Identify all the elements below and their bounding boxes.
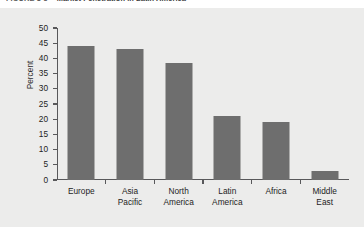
bar	[154, 28, 203, 180]
x-axis-category-label: Europe	[57, 186, 106, 197]
x-axis-tick-mark	[251, 180, 252, 184]
bar-rect	[214, 116, 241, 180]
x-axis-category-label: North America	[154, 186, 203, 207]
bar-rect	[68, 46, 95, 180]
y-axis-tick-label: 40	[39, 53, 48, 63]
x-axis-category-label: Middle East	[300, 186, 349, 207]
y-axis-tick-label: 0	[43, 175, 48, 185]
bar	[300, 28, 349, 180]
x-axis-labels: EuropeAsia PacificNorth AmericaLatin Ame…	[57, 180, 349, 226]
figure-caption: FIGURE 3-5Market Penetration in Latin Am…	[6, 0, 360, 4]
y-axis-tick-label: 45	[39, 38, 48, 48]
y-axis-tick-label: 15	[39, 129, 48, 139]
x-axis-tick-mark	[300, 180, 301, 184]
bar	[252, 28, 301, 180]
bar-rect	[165, 63, 192, 180]
y-axis-tick-label: 35	[39, 68, 48, 78]
x-axis-category-label: Latin America	[203, 186, 252, 207]
y-axis-tick-label: 20	[39, 114, 48, 124]
bar	[106, 28, 155, 180]
bar-series	[57, 28, 349, 180]
bar-rect	[262, 122, 289, 180]
y-axis-tick-label: 5	[43, 159, 48, 169]
figure-number: FIGURE 3-5	[6, 0, 48, 3]
bar-chart: Percent 05101520253035404550 EuropeAsia …	[0, 8, 364, 227]
y-axis-tick-label: 25	[39, 99, 48, 109]
x-axis-category-label: Asia Pacific	[106, 186, 155, 207]
x-axis-category-label: Africa	[252, 186, 301, 197]
y-axis-tick-label: 50	[39, 23, 48, 33]
bar	[57, 28, 106, 180]
x-axis-tick-mark	[105, 180, 106, 184]
y-axis-tick-label: 30	[39, 83, 48, 93]
y-axis-tick-label: 10	[39, 144, 48, 154]
bar-rect	[311, 171, 338, 180]
figure-title: Market Penetration in Latin America	[57, 0, 186, 3]
x-axis-tick-mark	[202, 180, 203, 184]
x-axis-tick-mark	[154, 180, 155, 184]
bar	[203, 28, 252, 180]
bar-rect	[116, 49, 143, 180]
y-axis-title: Percent	[25, 44, 35, 106]
